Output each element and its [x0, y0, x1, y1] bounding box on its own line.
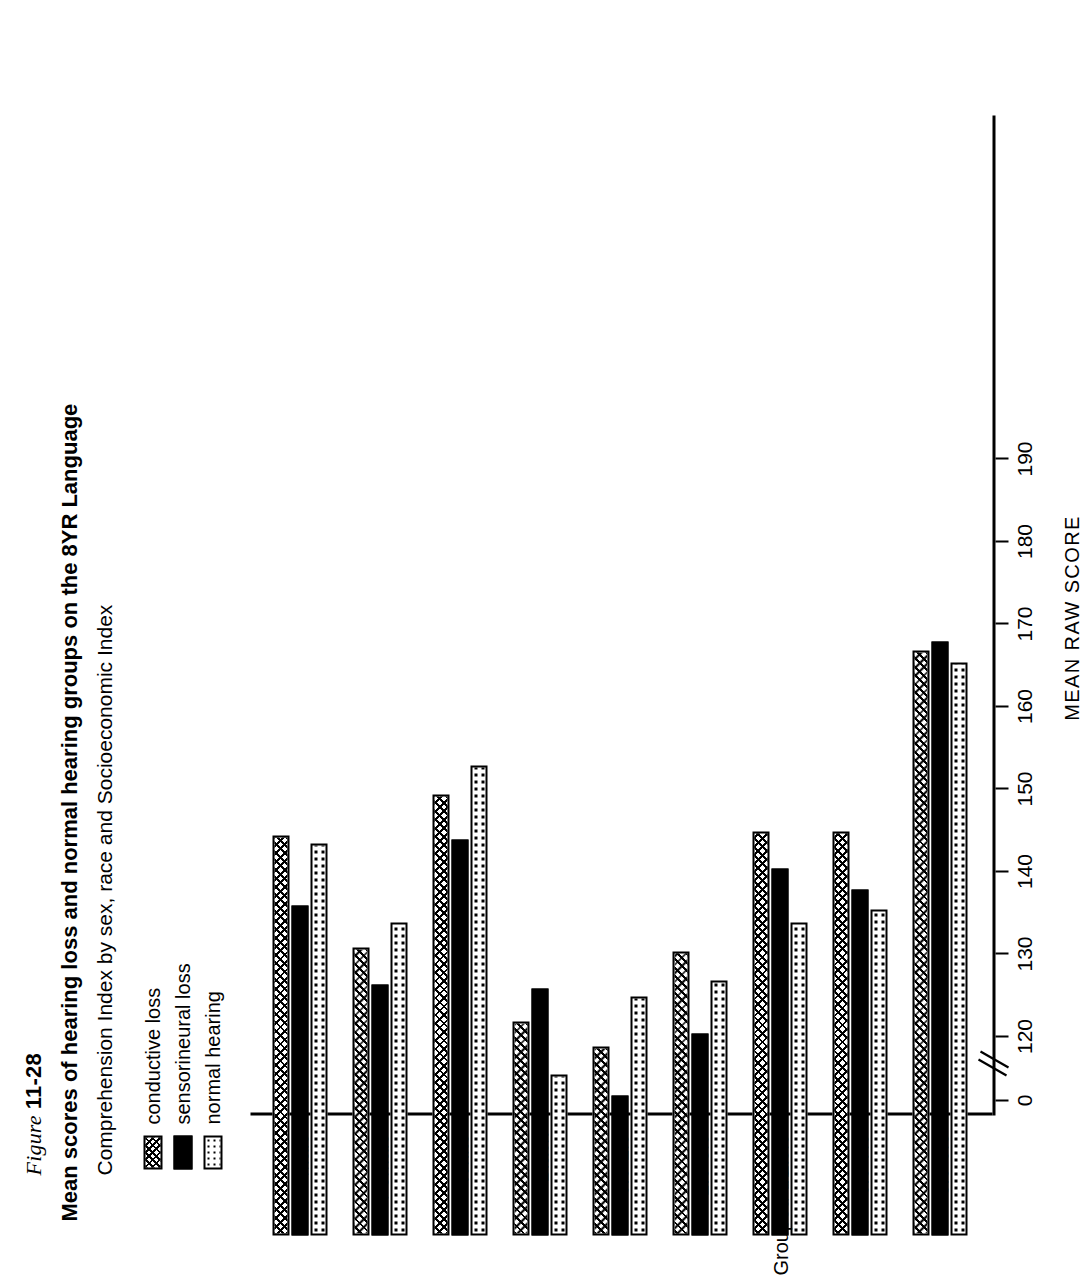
- category-tick-4.0-5.9: [781, 1115, 783, 1129]
- figure-word: Figure: [20, 1115, 45, 1175]
- bar-solid-black-Male: [291, 905, 308, 1235]
- legend-swatch-solid-icon: [173, 1135, 192, 1169]
- category-label-Female: Female: [369, 1133, 392, 1200]
- legend-item-normal: normal hearing: [202, 963, 223, 1169]
- category-tick-6.0-7.9: [861, 1115, 863, 1129]
- value-tick-170: [995, 623, 1008, 625]
- category-tick-8.0-9.5: [941, 1115, 943, 1129]
- figure-title-line-2: Comprehension Index by sex, race and Soc…: [92, 604, 116, 1175]
- bar-crosshatch-White: [432, 794, 449, 1235]
- category-tick-0.0-1.9: [621, 1115, 623, 1129]
- category-tick-Female: [381, 1115, 383, 1129]
- figure-number: 11-28: [20, 1053, 45, 1109]
- value-tick-label-190: 190: [1012, 441, 1036, 476]
- value-tick-label-180: 180: [1012, 523, 1036, 558]
- value-tick-label-120: 120: [1012, 1018, 1036, 1053]
- category-axis-title: Grouped SEI: [769, 1159, 792, 1275]
- figure-number-label: Figure 11-28: [20, 1053, 46, 1175]
- bar-dotted-Black: [550, 1075, 567, 1236]
- value-tick-label-160: 160: [1012, 688, 1036, 723]
- category-label-White: White: [449, 1133, 472, 1184]
- legend-swatch-dotted-icon: [203, 1135, 222, 1169]
- category-tick-Male: [301, 1115, 303, 1129]
- category-label-8.0-9.5: 8.0-9.5: [929, 1133, 952, 1195]
- legend-swatch-crosshatch-icon: [143, 1135, 162, 1169]
- bar-crosshatch-Black: [512, 1021, 529, 1235]
- bar-dotted-Female: [390, 922, 407, 1235]
- value-tick-label-130: 130: [1012, 936, 1036, 971]
- value-tick-130: [995, 953, 1008, 955]
- bar-crosshatch-4.0-5.9: [752, 831, 769, 1235]
- legend-item-sensorineural: sensorineural loss: [172, 963, 193, 1169]
- plot-area: 0120130140150160170180190 MaleFemaleWhit…: [250, 0, 1020, 1235]
- bar-crosshatch-8.0-9.5: [912, 650, 929, 1235]
- bar-dotted-Male: [310, 844, 327, 1236]
- value-tick-140: [995, 870, 1008, 872]
- value-tick-label-140: 140: [1012, 853, 1036, 888]
- value-tick-180: [995, 540, 1008, 542]
- bar-crosshatch-6.0-7.9: [832, 831, 849, 1235]
- legend-label-sensorineural: sensorineural loss: [171, 963, 194, 1124]
- bar-crosshatch-2.0-3.9: [672, 951, 689, 1235]
- category-label-6.0-7.9: 6.0-7.9: [849, 1133, 872, 1195]
- bar-dotted-2.0-3.9: [710, 980, 727, 1235]
- value-axis-line: [992, 115, 995, 1115]
- legend-item-conductive: conductive loss: [142, 963, 163, 1169]
- bar-dotted-0.0-1.9: [630, 996, 647, 1235]
- category-tick-White: [461, 1115, 463, 1129]
- category-tick-Black: [541, 1115, 543, 1129]
- category-label-2.0-3.9: 2.0-3.9: [689, 1133, 712, 1195]
- value-tick-label-150: 150: [1012, 771, 1036, 806]
- value-tick-120: [995, 1035, 1008, 1037]
- bar-dotted-8.0-9.5: [950, 662, 967, 1235]
- value-tick-0: [995, 1099, 1008, 1101]
- value-tick-160: [995, 705, 1008, 707]
- category-label-Male: Male: [289, 1133, 312, 1176]
- bar-crosshatch-0.0-1.9: [592, 1046, 609, 1235]
- value-tick-label-0: 0: [1012, 1094, 1036, 1106]
- figure-title-line-1: Mean scores of hearing loss and normal h…: [56, 403, 82, 1221]
- category-tick-2.0-3.9: [701, 1115, 703, 1129]
- bar-dotted-4.0-5.9: [790, 922, 807, 1235]
- bar-solid-black-Black: [531, 988, 548, 1235]
- value-tick-label-170: 170: [1012, 606, 1036, 641]
- category-label-0.0-1.9: 0.0-1.9: [609, 1133, 632, 1195]
- bar-dotted-White: [470, 765, 487, 1235]
- legend-label-conductive: conductive loss: [141, 987, 164, 1124]
- bar-crosshatch-Male: [272, 835, 289, 1235]
- legend: conductive loss sensorineural loss norma…: [142, 963, 232, 1169]
- bar-dotted-6.0-7.9: [870, 910, 887, 1236]
- legend-label-normal: normal hearing: [201, 991, 224, 1124]
- value-axis-title: MEAN RAW SCORE: [1060, 0, 1083, 1235]
- bar-crosshatch-Female: [352, 947, 369, 1235]
- category-label-Black: Black: [529, 1133, 552, 1182]
- value-tick-150: [995, 788, 1008, 790]
- value-tick-190: [995, 458, 1008, 460]
